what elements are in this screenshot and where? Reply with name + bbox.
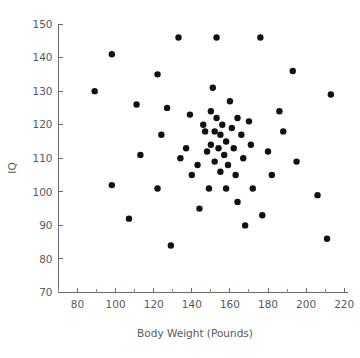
data-point [196,205,202,211]
plot-canvas: 708090100110120130140150 IQ 801001201401… [0,0,360,358]
data-point [293,158,299,164]
y-tick-label: 130 [32,85,52,97]
data-point [211,158,217,164]
data-point [154,185,160,191]
data-point [248,142,254,148]
data-point [177,155,183,161]
data-point [187,111,193,117]
data-point [328,91,334,97]
data-point [225,162,231,168]
x-tick-label: 180 [258,298,278,310]
data-point [158,132,164,138]
data-point [183,145,189,151]
data-point [109,182,115,188]
y-tick-label-group: 708090100110120130140150 [32,18,52,299]
data-point [154,71,160,77]
data-point-group [91,34,334,248]
x-tick-label: 120 [144,298,164,310]
data-point [109,51,115,57]
x-tick-label: 80 [71,298,84,310]
data-point [126,215,132,221]
y-tick-label: 80 [39,253,52,265]
y-tick-label: 70 [39,286,52,298]
x-tick-label: 200 [296,298,316,310]
scatter-plot-figure: 708090100110120130140150 IQ 801001201401… [0,0,360,358]
data-point [219,121,225,127]
data-point [259,212,265,218]
data-point [314,192,320,198]
data-point [202,128,208,134]
y-tick-label: 100 [32,186,52,198]
data-point [204,148,210,154]
data-point [213,34,219,40]
data-point [290,68,296,74]
data-point [324,236,330,242]
data-point [206,185,212,191]
data-point [208,142,214,148]
data-point [189,172,195,178]
x-tick-label: 220 [334,298,354,310]
data-point [208,108,214,114]
data-point [223,138,229,144]
x-tick-label-group: 80100120140160180200220 [71,298,354,310]
data-point [229,125,235,131]
y-tick-label: 110 [32,152,52,164]
y-axis-title: IQ [6,162,18,173]
data-point [175,34,181,40]
data-point [215,145,221,151]
data-point [211,128,217,134]
data-point [217,168,223,174]
data-point [137,152,143,158]
y-tick-label: 140 [32,51,52,63]
x-tick-label: 100 [106,298,126,310]
data-point [250,185,256,191]
data-point [223,185,229,191]
data-point [164,105,170,111]
data-point [168,242,174,248]
y-axis: 708090100110120130140150 IQ [6,18,63,299]
y-tick-group [59,24,63,293]
data-point [194,162,200,168]
data-point [276,108,282,114]
data-point [213,115,219,121]
data-point [210,85,216,91]
x-tick-label: 140 [182,298,202,310]
data-point [265,148,271,154]
data-point [257,34,263,40]
y-tick-label: 120 [32,118,52,130]
data-point [133,101,139,107]
data-point [232,172,238,178]
data-point [280,128,286,134]
data-point [246,118,252,124]
data-point [227,98,233,104]
data-point [240,155,246,161]
data-point [217,132,223,138]
x-axis-title: Body Weight (Pounds) [137,327,253,339]
data-point [91,88,97,94]
y-tick-label: 90 [39,219,52,231]
data-point [234,115,240,121]
data-point [221,152,227,158]
data-point [242,222,248,228]
data-point [200,121,206,127]
data-point [238,132,244,138]
y-tick-label: 150 [32,18,52,30]
data-point [269,172,275,178]
x-tick-label: 160 [220,298,240,310]
x-axis: 80100120140160180200220 Body Weight (Pou… [59,288,355,340]
data-point [231,145,237,151]
data-point [234,199,240,205]
